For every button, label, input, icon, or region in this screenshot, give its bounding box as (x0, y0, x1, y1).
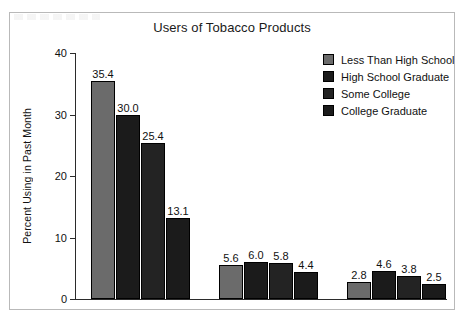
y-axis-tick-mark (70, 238, 75, 239)
legend-item[interactable]: Some College (323, 85, 455, 102)
legend-item[interactable]: Less Than High School (323, 51, 455, 68)
y-axis-tick-label: 10 (55, 232, 67, 244)
legend-item-label: High School Graduate (341, 71, 449, 83)
bar-value-label: 5.8 (273, 250, 288, 262)
y-axis-tick-mark (70, 53, 75, 54)
y-axis-title: Percent Using in Past Month (21, 108, 35, 244)
bar-value-label: 2.8 (351, 269, 366, 281)
bar[interactable]: 5.6 (219, 265, 243, 299)
bar-group: 35.430.025.413.1 (91, 53, 191, 299)
bar[interactable]: 13.1 (166, 218, 190, 299)
bar-group: 5.66.05.84.4 (219, 53, 319, 299)
y-axis-tick-label: 0 (61, 293, 67, 305)
y-axis-tick-label: 30 (55, 109, 67, 121)
bar-value-label: 2.5 (426, 271, 441, 283)
bar-value-label: 4.4 (298, 259, 313, 271)
bar[interactable]: 4.4 (294, 272, 318, 299)
bar[interactable]: 2.8 (347, 282, 371, 299)
legend-swatch-icon (323, 71, 334, 82)
x-axis-line (75, 299, 447, 300)
bar[interactable]: 4.6 (372, 271, 396, 299)
legend-item-label: Less Than High School (341, 54, 455, 66)
bar-value-label: 13.1 (167, 205, 188, 217)
bar-value-label: 3.8 (401, 263, 416, 275)
legend-item[interactable]: College Graduate (323, 102, 455, 119)
page-title: Users of Tobacco Products (10, 20, 454, 35)
chart-figure: Users of Tobacco Products Percent Using … (9, 12, 455, 310)
y-axis-line (75, 53, 76, 300)
legend-swatch-icon (323, 88, 334, 99)
bar-value-label: 4.6 (376, 258, 391, 270)
bar[interactable]: 6.0 (244, 262, 268, 299)
chart-legend: Less Than High SchoolHigh School Graduat… (323, 51, 455, 119)
bar[interactable]: 2.5 (422, 284, 446, 299)
y-axis-tick-mark (70, 176, 75, 177)
legend-item-label: College Graduate (341, 105, 427, 117)
bar[interactable]: 30.0 (116, 115, 140, 300)
bar-value-label: 6.0 (248, 249, 263, 261)
bar-value-label: 35.4 (92, 68, 113, 80)
legend-item-label: Some College (341, 88, 410, 100)
legend-item[interactable]: High School Graduate (323, 68, 455, 85)
y-axis-tick-label: 20 (55, 170, 67, 182)
bar[interactable]: 35.4 (91, 81, 115, 299)
bar[interactable]: 25.4 (141, 143, 165, 299)
bar-value-label: 30.0 (117, 102, 138, 114)
bar[interactable]: 5.8 (269, 263, 293, 299)
y-axis-tick-mark (70, 299, 75, 300)
legend-swatch-icon (323, 54, 334, 65)
bar-value-label: 25.4 (142, 130, 163, 142)
bar[interactable]: 3.8 (397, 276, 421, 299)
bar-value-label: 5.6 (223, 252, 238, 264)
y-axis-tick-mark (70, 115, 75, 116)
y-axis-tick-label: 40 (55, 47, 67, 59)
legend-swatch-icon (323, 105, 334, 116)
